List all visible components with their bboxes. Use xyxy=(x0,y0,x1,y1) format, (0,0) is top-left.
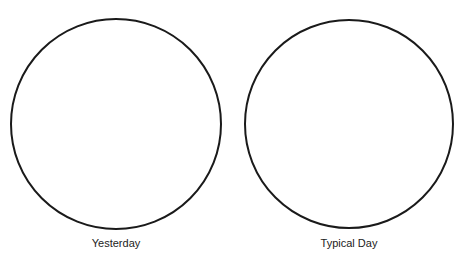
typical-day-circle xyxy=(245,20,453,228)
yesterday-circle xyxy=(11,19,221,229)
yesterday-label: Yesterday xyxy=(56,237,176,249)
pie-outlines xyxy=(0,0,463,258)
typical-day-label: Typical Day xyxy=(289,237,409,249)
